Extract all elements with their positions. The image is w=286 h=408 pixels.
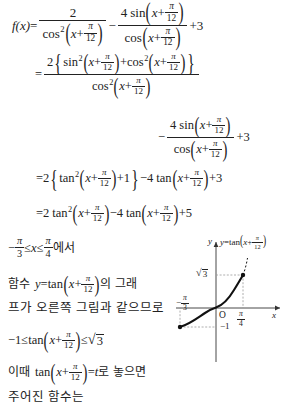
denominator-12: 12 (133, 87, 144, 96)
cos-function: cos (92, 80, 109, 93)
denominator-12: 12 (191, 179, 202, 188)
fraction-4-numerator: 4 sin ( x + π 12 ) (167, 115, 234, 136)
tan-function: tan (59, 172, 74, 185)
pi-symbol: π (168, 2, 175, 12)
pi-symbol: π (212, 139, 219, 148)
sin-function: sin (179, 119, 194, 132)
denominator-12: 12 (102, 63, 113, 72)
tan-function: tan (35, 366, 50, 379)
korean-line-8: 프가 오른쪽 그림과 같으므로 (8, 302, 164, 315)
plus-three-4: +3 (209, 172, 222, 185)
left-paren: ( (44, 333, 49, 347)
axes (176, 242, 280, 362)
right-paren: ) (104, 206, 109, 220)
tangent-curve (180, 275, 243, 327)
plus-sign: + (160, 56, 167, 69)
pi-symbol: π (135, 76, 142, 85)
plus-sign: + (205, 119, 212, 132)
left-paren: ( (63, 277, 68, 291)
left-brace: { (55, 55, 62, 70)
korean-suffix-ro-nohumyeon: 로 놓으면 (98, 366, 146, 378)
plus-five: +5 (179, 207, 192, 220)
solution-page: f(x) = 2 cos2 ( x + π 12 ) − (0, 0, 286, 408)
function-name: f(x) (12, 19, 30, 32)
pi-over-12: π 12 (85, 22, 96, 44)
pi-over-12: π 12 (162, 27, 173, 49)
left-paren: ( (114, 79, 119, 93)
equals-sign-4: = (36, 172, 43, 185)
denominator-12: 12 (168, 63, 179, 72)
cos-function: cos (42, 27, 59, 40)
fraction-2-numerator: 4 sin ( x + π 12 ) (118, 2, 188, 24)
plus-sign-inner: + (120, 56, 127, 69)
pi-symbol: π (85, 274, 92, 283)
fraction-1: 2 cos2 ( x + π 12 ) (39, 6, 106, 44)
fraction-2-denominator: cos ( x + π 12 ) (121, 27, 183, 49)
equals-sign-10: = (88, 366, 95, 379)
pi-over-12: π 12 (70, 362, 81, 383)
denominator-12: 12 (213, 126, 224, 135)
pi-symbol: π (45, 236, 52, 247)
cos-function: cos (127, 56, 144, 69)
equals-sign-1: = (30, 19, 37, 32)
korean-suffix-eseo: 에서 (53, 242, 75, 254)
fraction-2: 4 sin ( x + π 12 ) cos ( x + π (118, 2, 188, 48)
left-paren: ( (65, 26, 70, 41)
graph-svg (176, 236, 286, 366)
pi-over-12: π 12 (166, 2, 177, 24)
right-brace: } (131, 171, 138, 186)
denominator-3: 3 (16, 249, 23, 260)
exponent: 2 (60, 25, 64, 34)
right-paren: ) (179, 5, 184, 20)
left-paren: ( (73, 206, 78, 220)
right-paren: ) (175, 30, 180, 45)
left-paren: ( (194, 118, 199, 132)
coefficient-2: 2 (43, 172, 49, 185)
plus-three-3: +3 (236, 131, 249, 144)
less-equal-2: ≤ (37, 242, 44, 255)
tan-function: tan (28, 334, 43, 347)
right-paren: ) (95, 277, 100, 291)
coefficient-4: 4 (121, 6, 128, 19)
radical-sign: √ (88, 333, 96, 347)
fraction-3: 2 { sin2 ( x + π 12 ) + cos2 ( x + π (44, 52, 199, 97)
plus-sign: + (77, 27, 84, 40)
sin-function: sin (63, 56, 78, 69)
right-paren: ) (173, 206, 178, 220)
korean-line-7: 함수 y = tan ( x + π 12 ) 의 그래 (8, 274, 137, 295)
left-paren: ( (191, 142, 196, 156)
plus-one: +1 (117, 172, 130, 185)
plus-sign: + (154, 31, 161, 44)
y-axis-arrow (214, 242, 219, 247)
right-paren: ) (226, 118, 231, 132)
domain-line: − π 3 ≤ x ≤ π 4 에서 (8, 236, 75, 260)
pi-over-12: π 12 (168, 52, 179, 73)
korean-line-11: 주어진 함수는 (8, 391, 84, 404)
pi-over-12: π 12 (102, 52, 113, 73)
tan-function: tan (156, 172, 171, 185)
minus-four: −4 (110, 207, 123, 220)
x-tick-label-neg-pi-over-3: −π3 (176, 294, 189, 312)
pi-symbol: π (65, 330, 72, 339)
pi-over-12: π 12 (210, 139, 221, 160)
pi-over-12: π 12 (161, 203, 172, 224)
korean-suffix-ui-geurae: 의 그래 (100, 278, 137, 290)
equation-line-2: = 2 { sin2 ( x + π 12 ) + cos2 ( x + (35, 52, 201, 97)
plus-sign: + (74, 278, 81, 291)
coefficient-2: 2 (43, 207, 49, 220)
minus-sign-domain: − (8, 242, 15, 255)
range-inequality-line: −1 ≤ tan ( x + π 12 ) ≤ √ 3 (8, 330, 104, 351)
right-paren: ) (222, 142, 227, 156)
pi-symbol: π (163, 203, 170, 212)
left-paren: ( (149, 55, 154, 69)
fraction-4: 4 sin ( x + π 12 ) cos ( x + π (167, 115, 234, 160)
right-paren: ) (111, 171, 116, 185)
fraction-1-denominator: cos2 ( x + π 12 ) (39, 22, 106, 44)
left-paren: ( (80, 171, 85, 185)
equation-line-1: f(x) = 2 cos2 ( x + π 12 ) − (12, 2, 203, 48)
x-axis-label: x (272, 310, 276, 320)
denominator-12: 12 (92, 214, 103, 223)
fraction-1-numerator: 2 (67, 6, 80, 19)
pi-symbol: π (94, 203, 101, 212)
y-tick-label-sqrt3: √3 (196, 268, 208, 279)
